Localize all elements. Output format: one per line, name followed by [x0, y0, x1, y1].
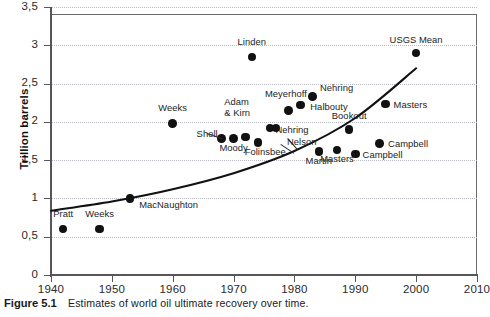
- x-tick-1980: [294, 275, 295, 282]
- x-tick-1960: [173, 275, 174, 282]
- gridline-2,5: [52, 84, 477, 85]
- data-point-label-moody: Moody: [219, 143, 247, 153]
- x-tick-label-2000: 2000: [403, 283, 429, 295]
- x-tick-label-1940: 1940: [38, 283, 64, 295]
- y-tick-label-3,5: 3,5: [0, 0, 38, 12]
- x-tick-label-1990: 1990: [342, 283, 368, 295]
- x-tick-2000: [416, 275, 417, 282]
- data-point-label-macnaughton: MacNaughton: [139, 200, 198, 210]
- data-point-linden[interactable]: [248, 53, 257, 62]
- data-point-label-nehring: Nehring: [275, 125, 308, 135]
- gridline-1,5: [52, 160, 477, 161]
- data-point-label-masters: Masters: [320, 154, 354, 164]
- x-axis-line: [51, 274, 478, 276]
- x-tick-label-1970: 1970: [220, 283, 246, 295]
- y-axis-line: [50, 7, 52, 277]
- gridline-3,5: [52, 7, 477, 8]
- x-tick-label-2010: 2010: [464, 283, 490, 295]
- figure-caption: Figure 5.1 Estimates of world oil ultima…: [4, 297, 309, 309]
- data-point-label-adam-kirn: Adam& Kirn: [224, 97, 250, 118]
- data-point-meyerhoff[interactable]: [284, 106, 293, 115]
- y-tick-label-3: 3: [0, 38, 38, 50]
- gridline-0,5: [52, 237, 477, 238]
- x-tick-label-1960: 1960: [159, 283, 185, 295]
- data-point-label-meyerhoff: Meyerhoff: [265, 89, 307, 99]
- data-point-label-linden: Linden: [238, 37, 266, 47]
- x-tick-1950: [112, 275, 113, 282]
- data-point-label-usgs-mean: USGS Mean: [390, 35, 443, 45]
- x-tick-label-1980: 1980: [281, 283, 307, 295]
- y-tick-label-0,5: 0,5: [0, 229, 38, 241]
- x-tick-1990: [355, 275, 356, 282]
- data-point-label-bookout: Bookout: [332, 111, 367, 121]
- data-point-nehring[interactable]: [308, 92, 317, 101]
- data-point-halbouty[interactable]: [296, 101, 305, 110]
- data-point-label-nehring: Nehring: [320, 83, 353, 93]
- data-point-label-campbell: Campbell: [363, 150, 403, 160]
- data-point-campbell[interactable]: [375, 139, 384, 148]
- y-axis-title: Trillion barrels: [18, 69, 30, 189]
- gridline-2: [52, 122, 477, 123]
- caption-label: Figure 5.1: [4, 297, 57, 309]
- data-point-campbell[interactable]: [351, 150, 360, 159]
- data-point-label-weeks: Weeks: [85, 209, 114, 219]
- data-point-label-campbell: Campbell: [388, 139, 428, 149]
- x-tick-2010: [477, 275, 478, 282]
- caption-text: Estimates of world oil ultimate recovery…: [68, 297, 309, 309]
- data-point-label-folinsbee: Folinsbee: [245, 147, 286, 157]
- data-point-label-masters: Masters: [394, 100, 428, 110]
- data-point-macnaughton[interactable]: [126, 194, 135, 203]
- data-point-weeks[interactable]: [168, 119, 177, 128]
- data-point-label-weeks: Weeks: [158, 103, 187, 113]
- y-tick-label-1: 1: [0, 191, 38, 203]
- x-tick-1970: [234, 275, 235, 282]
- gridline-1: [52, 198, 477, 199]
- data-point-label-pratt: Pratt: [53, 209, 73, 219]
- y-tick-label-0: 0: [0, 268, 38, 280]
- x-tick-label-1950: 1950: [99, 283, 125, 295]
